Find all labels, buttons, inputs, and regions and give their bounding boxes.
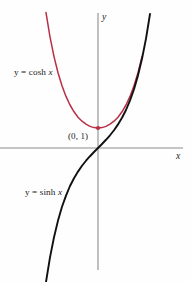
y-axis-label: y bbox=[102, 12, 106, 22]
x-axis-label: x bbox=[176, 151, 180, 161]
label-point-0-1: (0, 1) bbox=[68, 132, 88, 141]
label-sinh-prefix: y = bbox=[25, 187, 40, 197]
plot-canvas bbox=[0, 0, 191, 282]
label-cosh-prefix: y = bbox=[14, 67, 29, 77]
curve-cosh bbox=[46, 13, 142, 128]
label-sinh-name: sinh bbox=[40, 187, 56, 197]
hyperbolic-functions-figure: y = cosh x y = sinh x (0, 1) y x bbox=[0, 0, 191, 282]
point-marker-0-1 bbox=[96, 126, 100, 130]
label-cosh-curve: y = cosh x bbox=[14, 68, 53, 77]
label-cosh-name: cosh bbox=[29, 67, 46, 77]
label-sinh-var: x bbox=[58, 187, 62, 197]
label-cosh-var: x bbox=[48, 67, 52, 77]
label-sinh-curve: y = sinh x bbox=[25, 188, 62, 197]
